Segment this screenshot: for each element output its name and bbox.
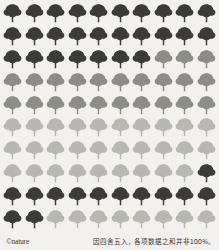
tree-icon xyxy=(67,185,88,207)
tree-icon xyxy=(153,185,174,207)
tree-icon xyxy=(24,48,45,70)
tree-icon xyxy=(88,185,109,207)
tree-icon xyxy=(174,185,195,207)
tree-icon xyxy=(2,2,23,24)
tree-icon xyxy=(110,208,131,230)
tree-icon xyxy=(196,208,217,230)
tree-icon xyxy=(2,116,23,138)
tree-icon xyxy=(2,25,23,47)
tree-icon xyxy=(45,116,66,138)
tree-icon xyxy=(88,162,109,184)
tree-icon xyxy=(45,2,66,24)
infographic-page: ©nature 因四舍五入，各项数据之和并非100%。 xyxy=(0,0,219,250)
tree-icon xyxy=(131,185,152,207)
tree-icon xyxy=(196,25,217,47)
tree-icon xyxy=(153,208,174,230)
tree-icon xyxy=(174,162,195,184)
tree-icon xyxy=(131,116,152,138)
tree-icon xyxy=(110,48,131,70)
tree-icon xyxy=(88,208,109,230)
tree-icon xyxy=(110,185,131,207)
tree-icon xyxy=(45,48,66,70)
tree-icon xyxy=(174,71,195,93)
tree-icon xyxy=(45,162,66,184)
tree-icon xyxy=(67,208,88,230)
figure-caption: 因四舍五入，各项数据之和并非100%。 xyxy=(93,236,215,246)
tree-icon xyxy=(110,162,131,184)
tree-icon xyxy=(131,71,152,93)
tree-icon xyxy=(110,71,131,93)
tree-icon xyxy=(110,139,131,161)
tree-icon xyxy=(196,162,217,184)
tree-icon xyxy=(2,185,23,207)
tree-icon xyxy=(2,48,23,70)
tree-icon xyxy=(88,116,109,138)
tree-icon xyxy=(67,139,88,161)
tree-icon xyxy=(24,139,45,161)
tree-icon xyxy=(110,116,131,138)
tree-icon xyxy=(131,139,152,161)
tree-icon xyxy=(67,48,88,70)
tree-icon xyxy=(2,71,23,93)
tree-icon xyxy=(24,71,45,93)
tree-icon xyxy=(2,94,23,116)
tree-icon xyxy=(88,2,109,24)
tree-icon xyxy=(131,48,152,70)
tree-icon xyxy=(88,71,109,93)
tree-icon xyxy=(110,25,131,47)
tree-icon xyxy=(196,139,217,161)
tree-icon xyxy=(67,71,88,93)
tree-icon xyxy=(24,25,45,47)
tree-icon xyxy=(67,25,88,47)
tree-icon xyxy=(174,2,195,24)
tree-icon xyxy=(67,2,88,24)
tree-icon xyxy=(131,162,152,184)
tree-icon xyxy=(110,2,131,24)
tree-icon xyxy=(45,25,66,47)
tree-icon xyxy=(45,139,66,161)
tree-icon xyxy=(153,48,174,70)
tree-icon xyxy=(174,48,195,70)
tree-icon xyxy=(24,116,45,138)
tree-icon xyxy=(2,139,23,161)
tree-icon xyxy=(24,185,45,207)
tree-icon xyxy=(196,48,217,70)
tree-icon xyxy=(88,94,109,116)
tree-icon xyxy=(174,25,195,47)
tree-icon xyxy=(174,94,195,116)
tree-icon xyxy=(196,94,217,116)
tree-icon xyxy=(153,71,174,93)
tree-icon xyxy=(153,162,174,184)
tree-icon xyxy=(67,162,88,184)
tree-icon xyxy=(24,94,45,116)
tree-icon xyxy=(67,94,88,116)
tree-icon xyxy=(153,116,174,138)
tree-icon xyxy=(174,116,195,138)
tree-icon xyxy=(131,25,152,47)
tree-icon xyxy=(196,71,217,93)
tree-icon xyxy=(88,25,109,47)
tree-icon xyxy=(2,208,23,230)
tree-icon xyxy=(110,94,131,116)
tree-icon xyxy=(67,116,88,138)
figure-footer: ©nature 因四舍五入，各项数据之和并非100%。 xyxy=(0,230,219,250)
tree-icon xyxy=(2,162,23,184)
tree-icon xyxy=(88,48,109,70)
tree-icon xyxy=(131,2,152,24)
tree-icon xyxy=(24,2,45,24)
tree-icon xyxy=(24,208,45,230)
tree-icon xyxy=(45,71,66,93)
tree-icon xyxy=(24,162,45,184)
tree-icon xyxy=(174,208,195,230)
pictogram-grid xyxy=(2,2,217,230)
tree-icon xyxy=(174,139,195,161)
tree-icon xyxy=(131,208,152,230)
tree-icon xyxy=(45,185,66,207)
tree-icon xyxy=(131,94,152,116)
tree-icon xyxy=(153,94,174,116)
tree-icon xyxy=(153,25,174,47)
tree-icon xyxy=(153,139,174,161)
tree-icon xyxy=(45,208,66,230)
tree-icon xyxy=(196,185,217,207)
tree-icon xyxy=(196,116,217,138)
